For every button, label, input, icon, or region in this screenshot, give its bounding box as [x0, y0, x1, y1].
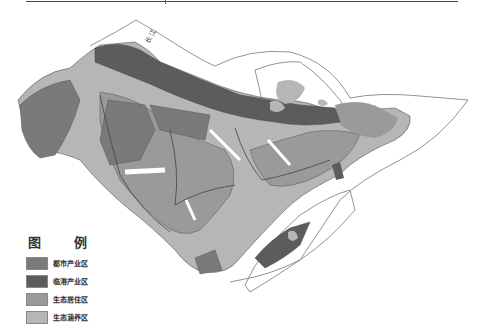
legend-swatch	[26, 311, 48, 324]
legend-item-eco-conservation: 生态涵养区	[26, 309, 101, 325]
creek	[125, 170, 165, 172]
island-eco-patch	[318, 100, 328, 107]
legend-swatch	[26, 293, 48, 306]
legend-item-urban-industry: 都市产业区	[26, 255, 101, 271]
legend-label: 都市产业区	[53, 258, 88, 268]
legend-label: 临港产业区	[53, 276, 88, 286]
legend-title: 图 例	[28, 232, 101, 251]
legend-label: 生态涵养区	[53, 312, 88, 322]
legend-swatch	[26, 275, 48, 288]
island-eco-patch	[276, 80, 305, 104]
legend-swatch	[26, 257, 48, 270]
map-legend: 图 例 都市产业区 临港产业区 生态居住区 生态涵养区	[26, 232, 101, 327]
legend-label: 生态居住区	[53, 294, 88, 304]
legend-item-eco-residential: 生态居住区	[26, 291, 101, 307]
legend-item-port-industry: 临港产业区	[26, 273, 101, 289]
